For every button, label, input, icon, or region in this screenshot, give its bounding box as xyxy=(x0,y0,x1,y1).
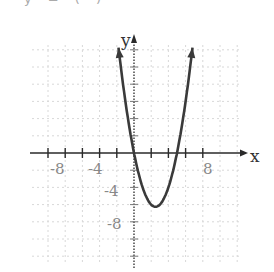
parabola-graph xyxy=(0,0,274,272)
y-tick-label-neg4: -4 xyxy=(104,182,119,200)
x-tick-label-neg4: -4 xyxy=(88,160,103,178)
axes xyxy=(30,34,248,268)
x-axis-label: x xyxy=(250,146,260,166)
x-axis-arrow-icon xyxy=(240,150,248,157)
parabola-curve xyxy=(119,48,193,207)
grid-lines xyxy=(32,45,240,265)
y-axis-arrow-icon xyxy=(131,34,137,43)
x-tick-label-8: 8 xyxy=(203,160,213,178)
x-tick-label-neg8: -8 xyxy=(50,160,65,178)
y-tick-label-neg8: -8 xyxy=(107,215,122,233)
y-axis-label: y xyxy=(121,30,131,50)
